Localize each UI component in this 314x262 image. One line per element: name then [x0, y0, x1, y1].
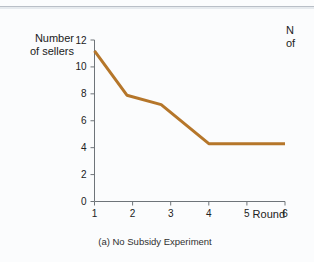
- figure-page: Number of sellers 024681012 123456 Round…: [0, 0, 314, 262]
- line-chart-plot: 024681012 123456: [0, 8, 300, 233]
- y-tick-label: 4: [81, 142, 87, 153]
- y-tick-label: 0: [81, 196, 87, 207]
- x-tick-label: 4: [206, 208, 212, 219]
- figure-caption: (a) No Subsidy Experiment: [30, 236, 280, 247]
- y-tick-label: 10: [75, 61, 87, 72]
- chart-axes: [95, 40, 286, 202]
- figure-panel-a: Number of sellers 024681012 123456 Round…: [0, 8, 300, 258]
- x-tick-label: 1: [92, 208, 98, 219]
- series-line-number-of-sellers: [95, 51, 286, 144]
- x-axis-title: Round: [213, 208, 285, 220]
- y-tick-label: 12: [75, 35, 87, 46]
- y-tick-label: 8: [81, 88, 87, 99]
- y-tick-label: 6: [81, 115, 87, 126]
- x-tick-label: 3: [168, 208, 174, 219]
- y-axis-ticks: 024681012: [75, 35, 94, 208]
- x-tick-label: 2: [130, 208, 136, 219]
- y-tick-label: 2: [81, 169, 87, 180]
- neighbor-panel-partial-label: N of: [286, 24, 314, 50]
